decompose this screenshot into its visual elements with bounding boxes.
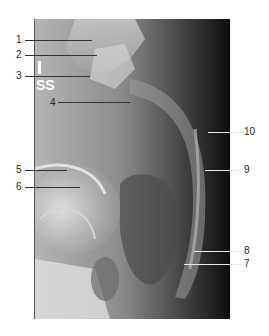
marker-bar bbox=[38, 61, 41, 74]
label-2: 2 bbox=[16, 50, 22, 60]
radiograph-image bbox=[34, 19, 230, 319]
label-9: 9 bbox=[244, 165, 250, 175]
label-8: 8 bbox=[244, 246, 250, 256]
marker-ss: SS bbox=[36, 78, 55, 92]
label-7: 7 bbox=[244, 259, 250, 269]
leader-line-3 bbox=[25, 76, 90, 77]
label-4: 4 bbox=[50, 98, 56, 108]
label-5: 5 bbox=[16, 165, 22, 175]
leader-line-5 bbox=[25, 170, 67, 171]
label-1: 1 bbox=[16, 35, 22, 45]
leader-line-10 bbox=[208, 132, 242, 133]
leader-line-6 bbox=[25, 187, 80, 188]
xray-illustration bbox=[35, 19, 230, 319]
leader-line-7 bbox=[184, 264, 242, 265]
label-3: 3 bbox=[16, 71, 22, 81]
label-10: 10 bbox=[244, 127, 255, 137]
leader-line-4 bbox=[58, 102, 130, 103]
leader-line-2 bbox=[25, 55, 97, 56]
leader-line-8 bbox=[194, 251, 242, 252]
label-6: 6 bbox=[16, 182, 22, 192]
leader-line-1 bbox=[25, 40, 92, 41]
leader-line-9 bbox=[205, 170, 241, 171]
